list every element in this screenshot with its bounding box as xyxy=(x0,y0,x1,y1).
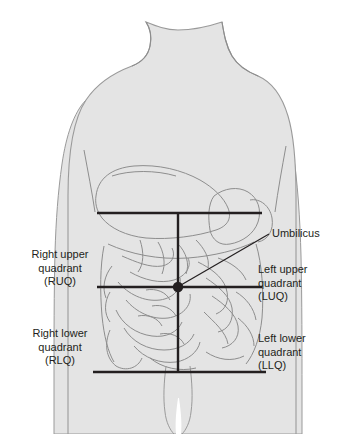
label-rlq-line3: (RLQ) xyxy=(8,354,112,368)
label-rlq-line2: quadrant xyxy=(8,341,112,355)
label-luq-line1: Left upper xyxy=(258,263,336,277)
label-left-upper-quadrant: Left upper quadrant (LUQ) xyxy=(258,263,336,304)
label-ruq-line2: quadrant xyxy=(8,262,112,276)
label-left-lower-quadrant: Left lower quadrant (LLQ) xyxy=(258,332,336,373)
label-llq-line1: Left lower xyxy=(258,332,336,346)
label-luq-line2: quadrant xyxy=(258,277,336,291)
label-rlq-line1: Right lower xyxy=(8,327,112,341)
label-luq-line3: (LUQ) xyxy=(258,290,336,304)
umbilicus-point xyxy=(173,282,183,292)
label-ruq-line1: Right upper xyxy=(8,248,112,262)
label-right-lower-quadrant: Right lower quadrant (RLQ) xyxy=(8,327,112,368)
label-umbilicus: Umbilicus xyxy=(272,227,336,241)
label-llq-line3: (LLQ) xyxy=(258,359,336,373)
label-llq-line2: quadrant xyxy=(258,346,336,360)
label-right-upper-quadrant: Right upper quadrant (RUQ) xyxy=(8,248,112,289)
label-ruq-line3: (RUQ) xyxy=(8,275,112,289)
